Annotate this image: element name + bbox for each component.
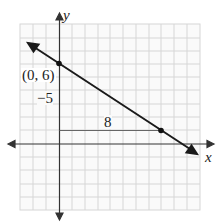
point-y-intercept [56,61,62,67]
run-label: 8 [104,115,112,129]
point-8-1 [158,128,164,134]
intercept-label: (0, 6) [21,68,56,82]
x-axis-label: x [205,150,212,164]
rise-label: −5 [37,91,53,105]
y-axis-label: y [63,8,70,22]
coordinate-graph [0,0,220,224]
